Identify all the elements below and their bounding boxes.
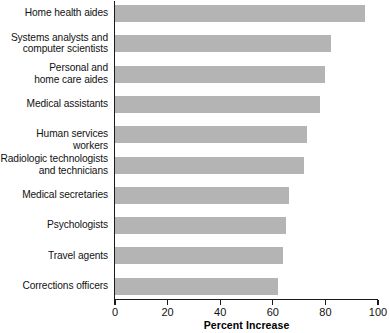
category-label: Systems analysts and computer scientists — [0, 32, 108, 55]
x-tick — [114, 300, 115, 305]
category-label: Medical secretaries — [0, 189, 108, 201]
bar — [115, 126, 307, 143]
category-label: Corrections officers — [0, 280, 108, 292]
bar — [115, 35, 331, 52]
category-label: Psychologists — [0, 219, 108, 231]
bar — [115, 217, 286, 234]
x-axis-line — [114, 299, 378, 300]
category-labels: Home health aidesSystems analysts and co… — [0, 0, 112, 300]
plot-area — [115, 0, 378, 300]
x-tick — [325, 300, 326, 305]
category-label: Radiologic technologists and technicians — [0, 153, 108, 176]
x-tick — [220, 300, 221, 305]
bar — [115, 66, 325, 83]
x-tick-label: 0 — [95, 306, 135, 318]
bar-chart: Home health aidesSystems analysts and co… — [0, 0, 390, 333]
y-axis-line — [114, 1, 115, 300]
bar — [115, 247, 283, 264]
x-tick-label: 20 — [148, 306, 188, 318]
bar — [115, 278, 278, 295]
category-label: Travel agents — [0, 250, 108, 262]
x-tick — [377, 300, 378, 305]
x-tick-label: 60 — [253, 306, 293, 318]
x-tick — [167, 300, 168, 305]
bar — [115, 157, 304, 174]
category-label: Home health aides — [0, 7, 108, 19]
category-label: Human services workers — [0, 128, 108, 151]
bar — [115, 5, 365, 22]
category-label: Medical assistants — [0, 98, 108, 110]
x-tick — [272, 300, 273, 305]
category-label: Personal and home care aides — [0, 62, 108, 85]
x-tick-label: 80 — [305, 306, 345, 318]
bar — [115, 96, 320, 113]
x-axis-title: Percent Increase — [115, 319, 378, 331]
x-tick-label: 40 — [200, 306, 240, 318]
bar — [115, 187, 289, 204]
x-tick-label: 100 — [358, 306, 390, 318]
